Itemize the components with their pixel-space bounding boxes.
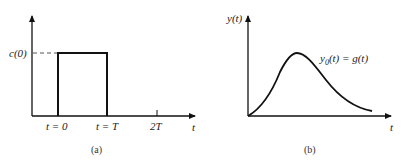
tick-label-2T: 2T — [150, 120, 163, 132]
panel-b: y(t) y0(t) = g(t) t (b) — [226, 12, 394, 156]
rectangular-pulse — [58, 53, 107, 116]
panel-a: c(0) t = 0 t = T 2T t (a) — [9, 16, 196, 156]
diagram-canvas: c(0) t = 0 t = T 2T t (a) y(t) y0(t) = g… — [0, 0, 407, 162]
tick-label-t0: t = 0 — [46, 120, 68, 132]
x-axis-label-a: t — [192, 121, 196, 133]
tick-label-tT: t = T — [96, 120, 119, 132]
caption-b: (b) — [304, 144, 316, 156]
c0-label: c(0) — [9, 47, 27, 60]
caption-a: (a) — [91, 144, 102, 156]
curve-label: y0(t) = g(t) — [319, 52, 368, 67]
x-axis-label-b: t — [390, 121, 394, 133]
y-axis-label-b: y(t) — [226, 12, 243, 25]
